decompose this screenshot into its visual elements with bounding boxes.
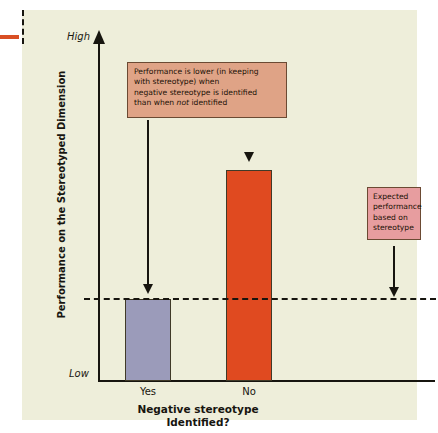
annotation-arrow-to-yes-bar-head-icon	[143, 284, 153, 294]
y-axis-high-label: High	[67, 31, 90, 42]
callout-expected-performance: Expected performance based on stereotype	[367, 187, 421, 240]
callout-main-line3: negative stereotype is identified	[134, 88, 257, 97]
x-axis-title: Negative stereotype Identified?	[88, 403, 308, 429]
y-axis-line	[98, 42, 100, 381]
annotation-arrow-to-no-bar-line	[22, 10, 24, 44]
callout-expected-line1: Expected	[373, 192, 408, 201]
x-axis-title-line2: Identified?	[166, 416, 229, 428]
callout-expected-line3: based on	[373, 213, 408, 222]
y-axis-arrow-icon	[93, 30, 105, 44]
y-axis-title: Performance on the Stereotyped Dimension	[56, 109, 67, 319]
bar-yes	[125, 299, 171, 381]
callout-main-line1: Performance is lower (in keeping	[134, 67, 259, 76]
x-axis-title-line1: Negative stereotype	[137, 403, 258, 415]
callout-performance-lower: Performance is lower (in keeping with st…	[127, 62, 287, 118]
expected-performance-reference-line	[84, 298, 436, 300]
callout-expected-line2: performance	[373, 202, 422, 211]
x-tick-label-yes: Yes	[118, 386, 178, 397]
chart-panel: High Low Performance on the Stereotyped …	[22, 10, 417, 420]
callout-main-line4-post: identified	[189, 98, 227, 107]
y-axis-low-label: Low	[69, 368, 89, 379]
annotation-arrow-to-no-bar-head-icon	[244, 152, 254, 162]
x-tick-label-no: No	[219, 386, 279, 397]
annotation-arrow-to-yes-bar-line	[147, 120, 149, 286]
callout-main-line2: with stereotype) when	[134, 77, 219, 86]
callout-main-line4-pre: than when	[134, 98, 177, 107]
bar-no	[226, 170, 272, 381]
callout-main-line4-emphasis: not	[177, 98, 189, 107]
callout-expected-line4: stereotype	[373, 223, 414, 232]
left-edge-red-tick-icon	[0, 35, 19, 39]
expected-arrow-line	[393, 246, 395, 290]
figure-screenshot: High Low Performance on the Stereotyped …	[0, 0, 438, 433]
expected-arrow-head-icon	[389, 287, 399, 297]
